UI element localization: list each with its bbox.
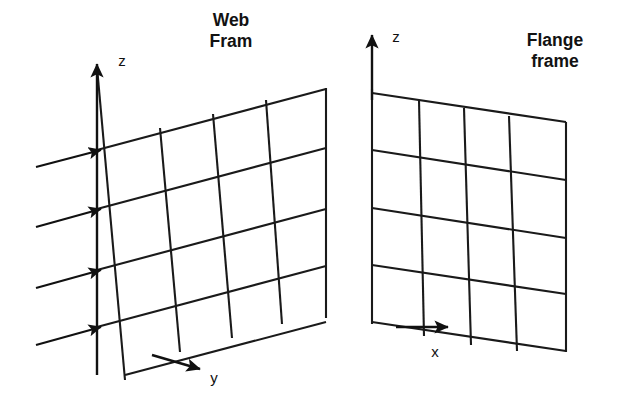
web-load-arrow-3 bbox=[36, 270, 101, 288]
web-load-arrow-4 bbox=[36, 327, 101, 345]
web-frame-group: Web Fram z y bbox=[36, 10, 326, 386]
web-h-line-3 bbox=[97, 209, 326, 270]
web-load-arrow-1 bbox=[36, 150, 101, 167]
web-frame-title-line2: Fram bbox=[210, 31, 253, 51]
web-v-line-3 bbox=[213, 114, 232, 338]
flange-h-line-2 bbox=[372, 150, 566, 180]
web-h-line-4 bbox=[97, 266, 326, 327]
web-z-axis-label: z bbox=[118, 52, 126, 69]
flange-x-axis-label: x bbox=[431, 343, 439, 360]
flange-frame-group: Flange frame z x bbox=[372, 28, 583, 360]
flange-frame-vertical-lines bbox=[372, 89, 566, 352]
web-frame-vertical-lines bbox=[97, 67, 326, 380]
web-v-line-4 bbox=[266, 100, 282, 324]
flange-z-axis-label: z bbox=[392, 28, 400, 45]
web-h-line-1 bbox=[97, 89, 326, 150]
flange-v-line-4 bbox=[509, 116, 517, 351]
web-v-line-2 bbox=[160, 128, 180, 352]
flange-h-line-1 bbox=[372, 93, 566, 122]
web-load-arrows bbox=[36, 150, 101, 345]
frames-diagram-svg: Web Fram z y Flange bbox=[0, 0, 629, 409]
web-load-arrow-2 bbox=[36, 209, 101, 227]
flange-v-line-3 bbox=[464, 108, 471, 345]
web-frame-title-line1: Web bbox=[213, 10, 250, 30]
web-h-line-5 bbox=[125, 322, 326, 375]
diagram-canvas: Web Fram z y Flange bbox=[0, 0, 629, 409]
flange-v-line-2 bbox=[419, 100, 424, 336]
web-frame-horizontal-lines bbox=[97, 89, 326, 375]
flange-h-line-3 bbox=[372, 208, 566, 238]
flange-frame-title-line1: Flange bbox=[527, 30, 584, 50]
web-v-line-1 bbox=[97, 67, 125, 380]
flange-frame-title-line2: frame bbox=[531, 51, 579, 71]
web-h-line-2 bbox=[97, 148, 326, 209]
web-y-axis-label: y bbox=[210, 369, 218, 386]
